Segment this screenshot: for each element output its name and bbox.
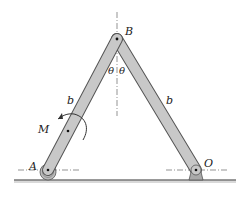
label-bar-left-length: b <box>67 94 74 107</box>
bar-ab-center-dot <box>67 130 70 133</box>
bar-bo <box>117 39 196 170</box>
label-b-point: B <box>124 25 133 38</box>
label-moment: M <box>37 123 50 136</box>
bar-ab <box>47 39 117 171</box>
label-a-point: A <box>28 160 37 173</box>
label-theta-left: θ <box>108 65 114 76</box>
label-bar-right-length: b <box>166 94 173 107</box>
pin-b <box>116 38 119 41</box>
label-theta-right: θ <box>119 65 125 76</box>
label-o-point: O <box>204 157 213 170</box>
ground <box>14 180 236 183</box>
linkage-diagram: B θ θ b b M A O <box>0 0 248 202</box>
